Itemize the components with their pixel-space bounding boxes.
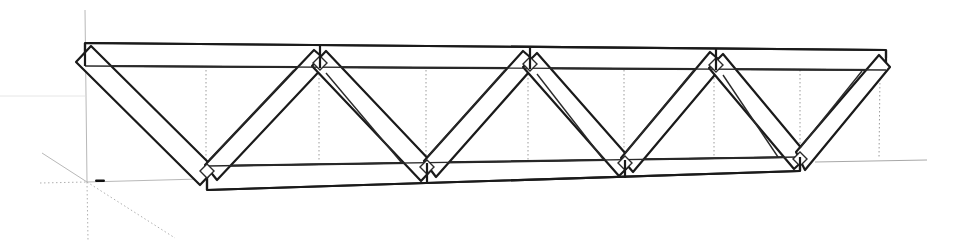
web-member-7[interactable] xyxy=(709,54,808,169)
web-member-8[interactable] xyxy=(796,55,890,170)
green-axis-line xyxy=(42,153,87,182)
axis-dotted-diagonal xyxy=(87,182,175,238)
web-member-5[interactable] xyxy=(523,53,633,176)
web-member-3[interactable] xyxy=(312,51,435,181)
web-member-4[interactable] xyxy=(424,51,537,177)
web-member-2[interactable] xyxy=(205,50,328,180)
origin-marker-icon xyxy=(95,180,105,183)
ground-line-right xyxy=(815,160,927,162)
axis-dotted-vertical xyxy=(87,182,88,240)
blue-axis-line xyxy=(85,10,87,182)
truss-drawing-canvas[interactable] xyxy=(0,0,972,245)
axis-dotted-horizontal xyxy=(40,182,87,183)
